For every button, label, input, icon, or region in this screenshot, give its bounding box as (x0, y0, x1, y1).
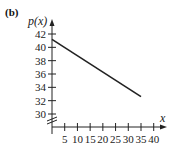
x-tick-label: 15 (85, 133, 97, 145)
y-axis-label: p(x) (27, 14, 47, 28)
y-axis (47, 19, 57, 134)
x-tick-label: 40 (148, 133, 160, 145)
series-line (52, 39, 141, 96)
x-tick-label: 5 (62, 133, 68, 145)
y-tick-label: 36 (35, 68, 47, 80)
y-axis-arrow-icon (50, 19, 55, 26)
y-tick-label: 42 (35, 28, 46, 40)
x-axis (52, 125, 167, 130)
x-tick-label: 20 (97, 133, 109, 145)
y-tick-label: 40 (35, 41, 47, 53)
x-tick-label: 25 (110, 133, 122, 145)
x-axis-label: x (159, 111, 166, 125)
x-tick-label: 30 (123, 133, 135, 145)
x-axis-arrow-icon (160, 125, 167, 130)
x-tick-label: 10 (72, 133, 84, 145)
y-tick-label: 38 (35, 55, 47, 67)
x-ticks: 510152025303540 (62, 123, 160, 145)
y-tick-label: 32 (35, 95, 46, 107)
data-series (52, 39, 141, 96)
panel-label: (b) (5, 6, 19, 19)
x-tick-label: 35 (136, 133, 148, 145)
chart: (b) p(x) 30323436384042 x 51015202530354… (0, 0, 176, 157)
y-ticks: 30323436384042 (35, 28, 56, 120)
y-tick-label: 30 (35, 108, 47, 120)
y-tick-label: 34 (35, 81, 47, 93)
